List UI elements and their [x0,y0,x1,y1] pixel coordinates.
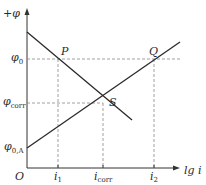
point-s-label: S [109,96,117,109]
y-axis-arrow-icon [25,8,30,15]
point-q-label: Q [149,45,158,58]
i2-label: i2 [150,170,158,184]
x-axis-label: lg i [184,164,202,177]
x-axis-arrow-icon [173,166,180,171]
phi0a-label: φ0,A [4,140,24,155]
phi0-label: φ0 [11,51,23,66]
origin-label: O [15,170,24,183]
i1-label: i1 [54,170,62,184]
polarization-diagram: +φ lg i O φ0 φcorr φ0,A i1 icorr i2 P Q … [0,0,206,185]
icorr-label: icorr [94,170,113,184]
point-p-label: P [60,45,69,58]
y-axis-label: +φ [3,7,20,20]
phicorr-label: φcorr [3,95,26,110]
